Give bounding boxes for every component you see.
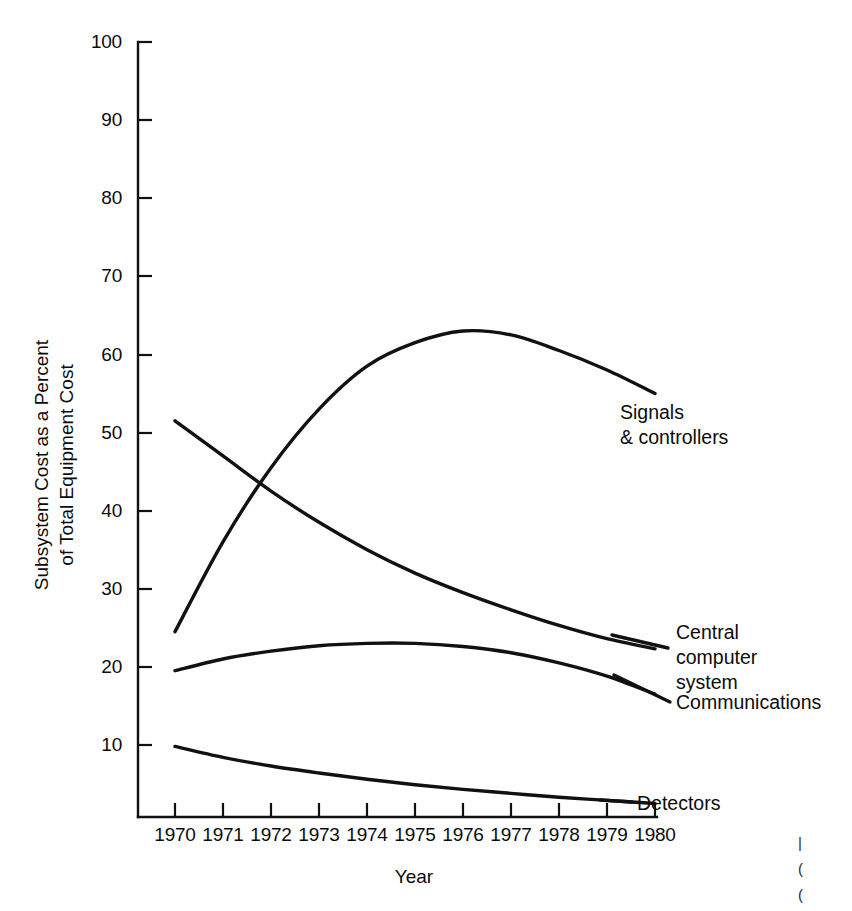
series-line-communications — [175, 643, 655, 694]
series-line-signals-and-controllers — [175, 331, 655, 632]
x-tick-label-1971: 1971 — [197, 824, 249, 846]
y-tick-label-50: 50 — [78, 422, 122, 444]
y-tick-label-40: 40 — [78, 500, 122, 522]
x-tick-label-1976: 1976 — [437, 824, 489, 846]
x-tick-label-1979: 1979 — [581, 824, 633, 846]
leader-line-detectors — [600, 800, 632, 802]
series-label-central-line-2: computer — [676, 645, 757, 670]
series-label-detectors: Detectors — [637, 791, 720, 816]
y-axis-ticks — [138, 42, 152, 745]
y-tick-label-20: 20 — [78, 656, 122, 678]
x-tick-label-1975: 1975 — [389, 824, 441, 846]
series-label-central-line-1: Central — [676, 620, 757, 645]
caption-fragment: |(( — [798, 830, 852, 908]
y-axis-title-line-1: Subsystem Cost as a Percent — [29, 295, 54, 635]
y-tick-label-10: 10 — [78, 734, 122, 756]
x-tick-label-1973: 1973 — [293, 824, 345, 846]
x-axis-title: Year — [364, 866, 464, 888]
x-tick-label-1970: 1970 — [149, 824, 201, 846]
y-tick-label-30: 30 — [78, 578, 122, 600]
y-tick-label-80: 80 — [78, 187, 122, 209]
y-axis-title: Subsystem Cost as a Percent of Total Equ… — [29, 295, 79, 635]
series-label-signals-line-2: & controllers — [620, 425, 728, 450]
x-tick-label-1974: 1974 — [341, 824, 393, 846]
figure-chart-subsystem-cost: 100 90 80 70 60 50 40 30 20 10 1970 1971… — [0, 0, 852, 911]
series-label-communications: Communications — [676, 690, 821, 715]
chart-plot-area — [0, 0, 852, 911]
x-axis-ticks — [175, 803, 655, 817]
series-line-detectors — [175, 746, 655, 803]
series-label-signals-and-controllers: Signals & controllers — [620, 400, 728, 450]
x-tick-label-1972: 1972 — [245, 824, 297, 846]
series-label-central-computer-system: Central computer system — [676, 620, 757, 695]
series-label-signals-line-1: Signals — [620, 400, 728, 425]
x-tick-label-1980: 1980 — [629, 824, 681, 846]
x-tick-label-1978: 1978 — [533, 824, 585, 846]
y-tick-label-70: 70 — [78, 265, 122, 287]
y-tick-label-60: 60 — [78, 344, 122, 366]
y-axis-title-line-2: of Total Equipment Cost — [54, 295, 79, 635]
leader-line-communications — [614, 675, 670, 702]
y-tick-label-90: 90 — [78, 109, 122, 131]
y-tick-label-100: 100 — [78, 31, 122, 53]
series-line-central-computer-system — [175, 421, 655, 649]
x-tick-label-1977: 1977 — [485, 824, 537, 846]
